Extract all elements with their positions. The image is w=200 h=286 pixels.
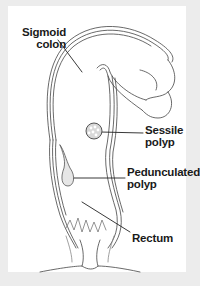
label-sessile-line2: polyp <box>145 136 183 148</box>
label-pedunculated-line1: Pedunculated <box>127 166 200 178</box>
pedunculated-polyp <box>60 145 74 186</box>
label-pedunculated-polyp: Pedunculated polyp <box>127 166 200 190</box>
label-sigmoid-line2: colon <box>16 38 66 50</box>
label-sessile-line1: Sessile <box>145 124 183 136</box>
sessile-polyp <box>86 123 102 139</box>
leader-sessile <box>100 132 143 133</box>
label-sigmoid-colon: Sigmoid colon <box>16 26 66 50</box>
colon-right-wall <box>106 76 118 248</box>
label-sigmoid-line1: Sigmoid <box>16 26 66 38</box>
label-rectum-line1: Rectum <box>132 232 173 244</box>
label-rectum: Rectum <box>132 232 173 244</box>
label-pedunculated-line2: polyp <box>127 178 200 190</box>
leader-rectum <box>82 202 130 232</box>
label-sessile-polyp: Sessile polyp <box>145 124 183 148</box>
